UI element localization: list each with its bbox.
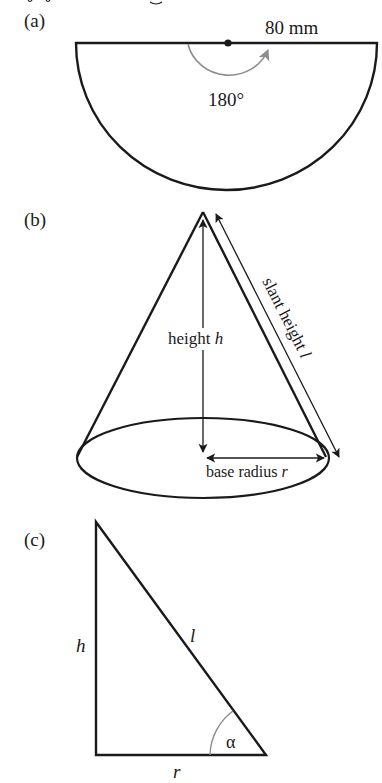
center-dot (224, 39, 231, 46)
angle-arc-180 (188, 44, 268, 75)
semicircle-sector (76, 43, 377, 190)
radius-label: 80 mm (265, 17, 319, 38)
panel-c: (c) h l r α (24, 522, 266, 782)
cropped-header-fragment (28, 0, 162, 4)
panel-a: (a) 80 mm 180° (24, 10, 377, 190)
panel-c-label: (c) (24, 529, 45, 551)
panel-b-label: (b) (24, 209, 46, 231)
right-triangle (96, 522, 266, 755)
angle-label: 180° (208, 89, 244, 110)
cone-net-diagram: (a) 80 mm 180° (b) height h base radius … (0, 0, 382, 783)
radius-label-b: base radius r (206, 463, 289, 480)
side-h-label: h (76, 635, 86, 656)
side-r-label: r (173, 761, 181, 782)
panel-b: (b) height h base radius r slant height … (24, 209, 339, 498)
slant-height-label: slant height l (258, 274, 315, 361)
panel-a-label: (a) (24, 10, 45, 32)
height-label: height h (168, 329, 223, 348)
side-l-label: l (190, 625, 195, 646)
alpha-label: α (226, 732, 236, 752)
